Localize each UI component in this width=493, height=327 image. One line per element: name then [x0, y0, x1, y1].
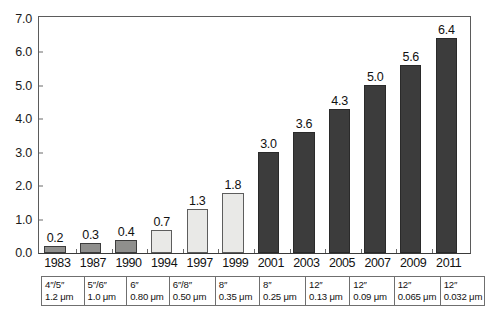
bar-value-label: 3.6: [296, 117, 312, 131]
bar-chart-figure: 0.01.02.03.04.05.06.07.0 0.20.30.40.71.3…: [0, 0, 493, 327]
y-axis-tick-label: 2.0: [15, 179, 32, 193]
spec-cell: 6″0.80 μm: [127, 277, 170, 306]
bar-value-label: 0.7: [153, 215, 169, 229]
bar-value-label: 6.4: [438, 23, 454, 37]
y-axis-tick-label: 1.0: [15, 213, 32, 227]
table-row: 4″/5″1.2 μm5″/6″1.0 μm6″0.80 μm6″/8″0.50…: [42, 277, 485, 306]
x-axis-label: 2001: [253, 256, 289, 270]
spec-cell: 12″0.065 μm: [394, 277, 440, 306]
x-axis-label: 1999: [217, 256, 253, 270]
wafer-size-text: 12″: [309, 279, 349, 291]
bar[interactable]: [80, 243, 102, 253]
bar[interactable]: [187, 209, 209, 253]
wafer-size-text: 6″/8″: [173, 279, 215, 291]
bar-series: 0.20.30.40.71.31.83.03.64.35.05.66.4: [41, 17, 469, 253]
y-axis-tick-label: 0.0: [15, 246, 32, 260]
x-axis-label: 1994: [146, 256, 182, 270]
bar-value-label: 0.3: [82, 228, 98, 242]
feature-size-text: 0.13 μm: [309, 291, 349, 303]
bar[interactable]: [329, 109, 351, 253]
bar-slot: 0.4: [112, 17, 141, 253]
x-axis-label: 1990: [111, 256, 147, 270]
bar[interactable]: [258, 152, 280, 253]
bar[interactable]: [115, 240, 137, 253]
bar[interactable]: [44, 246, 66, 253]
bar[interactable]: [151, 230, 173, 253]
x-axis-label: 1987: [75, 256, 111, 270]
spec-cell: 4″/5″1.2 μm: [42, 277, 85, 306]
specification-table: 4″/5″1.2 μm5″/6″1.0 μm6″0.80 μm6″/8″0.50…: [41, 276, 485, 306]
bar-slot: 1.8: [218, 17, 247, 253]
feature-size-text: 1.2 μm: [45, 291, 84, 303]
x-axis-labels: 1983198719901994199719992001200320052007…: [40, 256, 470, 274]
bar-value-label: 5.0: [367, 70, 383, 84]
spec-cell: 12″0.09 μm: [350, 277, 394, 306]
y-axis-tick-label: 3.0: [15, 146, 32, 160]
spec-cell: 6″/8″0.50 μm: [169, 277, 215, 306]
wafer-size-text: 8″: [263, 279, 305, 291]
y-axis-tick-label: 6.0: [15, 45, 32, 59]
x-axis-label: 1983: [40, 256, 76, 270]
feature-size-text: 0.032 μm: [444, 291, 484, 303]
spec-cell: 5″/6″1.0 μm: [84, 277, 127, 306]
feature-size-text: 0.80 μm: [130, 291, 169, 303]
bar[interactable]: [293, 132, 315, 253]
spec-cell: 12″0.032 μm: [440, 277, 484, 306]
wafer-size-text: 12″: [353, 279, 393, 291]
bar[interactable]: [222, 193, 244, 253]
x-axis-label: 2005: [324, 256, 360, 270]
bar-slot: 0.3: [76, 17, 105, 253]
bar-value-label: 3.0: [260, 137, 276, 151]
bar[interactable]: [436, 38, 458, 253]
x-axis-label: 2011: [431, 256, 467, 270]
feature-size-text: 0.50 μm: [173, 291, 215, 303]
bar-slot: 5.0: [361, 17, 390, 253]
spec-cell: 8″0.25 μm: [260, 277, 306, 306]
wafer-size-text: 5″/6″: [88, 279, 127, 291]
specification-table-body: 4″/5″1.2 μm5″/6″1.0 μm6″0.80 μm6″/8″0.50…: [42, 277, 485, 306]
bar-slot: 1.3: [183, 17, 212, 253]
bar-slot: 3.6: [290, 17, 319, 253]
bar-slot: 4.3: [325, 17, 354, 253]
bar-value-label: 4.3: [331, 94, 347, 108]
bar-slot: 5.6: [396, 17, 425, 253]
bar-slot: 6.4: [432, 17, 461, 253]
feature-size-text: 0.25 μm: [263, 291, 305, 303]
bar-slot: 3.0: [254, 17, 283, 253]
spec-cell: 8″0.35 μm: [215, 277, 259, 306]
y-axis-tick-label: 7.0: [15, 12, 32, 26]
wafer-size-text: 12″: [444, 279, 484, 291]
bar-value-label: 0.4: [118, 225, 134, 239]
wafer-size-text: 12″: [398, 279, 440, 291]
feature-size-text: 0.35 μm: [219, 291, 259, 303]
x-axis-label: 2003: [289, 256, 325, 270]
bar[interactable]: [400, 65, 422, 253]
bar-value-label: 0.2: [47, 231, 63, 245]
plot-area: 0.01.02.03.04.05.06.07.0 0.20.30.40.71.3…: [38, 16, 471, 254]
x-axis-label: 2007: [360, 256, 396, 270]
y-axis-tick-label: 4.0: [15, 112, 32, 126]
bar-value-label: 5.6: [402, 50, 418, 64]
x-axis-label: 2009: [395, 256, 431, 270]
spec-cell: 12″0.13 μm: [306, 277, 350, 306]
bar-value-label: 1.3: [189, 194, 205, 208]
bar-slot: 0.7: [147, 17, 176, 253]
feature-size-text: 0.09 μm: [353, 291, 393, 303]
y-axis-tick-label: 5.0: [15, 79, 32, 93]
bar-slot: 0.2: [41, 17, 70, 253]
wafer-size-text: 6″: [130, 279, 169, 291]
wafer-size-text: 8″: [219, 279, 259, 291]
bar-value-label: 1.8: [225, 178, 241, 192]
x-axis-label: 1997: [182, 256, 218, 270]
feature-size-text: 0.065 μm: [398, 291, 440, 303]
wafer-size-text: 4″/5″: [45, 279, 84, 291]
bar[interactable]: [364, 85, 386, 253]
feature-size-text: 1.0 μm: [88, 291, 127, 303]
